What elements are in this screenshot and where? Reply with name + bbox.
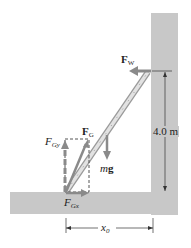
- wall: [151, 13, 178, 215]
- fgy-label: FGy: [45, 136, 60, 147]
- height-label: 4.0 m: [152, 126, 179, 137]
- x0-label: x0: [101, 222, 109, 233]
- ladder: [66, 72, 148, 192]
- ladder-diagram: [0, 0, 191, 248]
- fg-label: FG: [82, 126, 94, 137]
- fw-label: FW: [121, 54, 134, 65]
- mg-label: mg: [100, 163, 113, 174]
- x0-dimension: [66, 218, 153, 233]
- ground: [10, 192, 178, 214]
- fgx-label: FGx: [64, 197, 79, 208]
